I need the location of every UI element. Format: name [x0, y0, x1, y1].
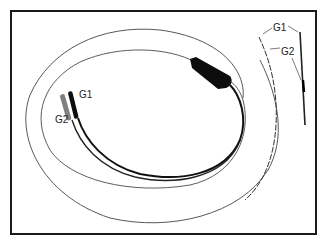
- label-g1-connector: G1: [79, 89, 93, 100]
- label-g1-tip: G1: [273, 22, 287, 33]
- tip-straight-ring: [303, 80, 304, 92]
- label-g2-tip: G2: [281, 46, 295, 57]
- outer-thin-wire: [26, 29, 278, 223]
- electrode-illustration: G1 G2 G1 G2: [0, 0, 327, 243]
- connector-body: [190, 57, 232, 89]
- label-g2-connector: G2: [55, 114, 69, 125]
